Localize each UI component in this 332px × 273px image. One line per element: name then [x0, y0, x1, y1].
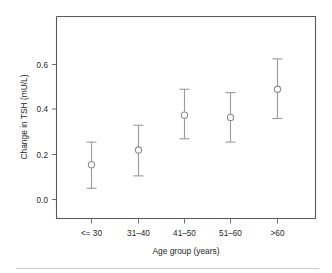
data-point-group-2: [180, 89, 190, 139]
y-tick-label-0: 0.6: [37, 61, 49, 70]
y-axis-ticks: [52, 65, 57, 200]
data-point-marker: [88, 162, 94, 168]
x-axis-title: Age group (years): [152, 246, 219, 256]
y-tick-label-2: 0.2: [37, 151, 49, 160]
x-tick-label-2: 41–50: [173, 229, 196, 238]
y-axis-tick-labels: 0.6 0.4 0.2 0.0: [37, 61, 49, 205]
data-point-marker: [135, 147, 141, 153]
data-series-layer: [87, 59, 283, 188]
data-point-group-1: [134, 125, 144, 176]
data-point-group-3: [226, 93, 236, 143]
x-tick-label-4: >60: [271, 229, 285, 238]
x-tick-label-1: 31–40: [127, 229, 150, 238]
y-tick-label-3: 0.0: [37, 196, 49, 205]
x-tick-label-3: 51–60: [219, 229, 242, 238]
tsh-change-scatter-chart: 0.6 0.4 0.2 0.0 Change in TSH (mU/L) <= …: [0, 0, 332, 273]
data-point-marker: [274, 86, 280, 92]
y-tick-label-1: 0.4: [37, 105, 49, 114]
chart-figure: 0.6 0.4 0.2 0.0 Change in TSH (mU/L) <= …: [0, 0, 332, 273]
data-point-group-4: [273, 59, 283, 119]
data-point-marker: [181, 112, 187, 118]
footer-divider: [16, 268, 319, 269]
x-axis-tick-labels: <= 30 31–40 41–50 51–60 >60: [81, 229, 285, 238]
x-tick-label-0: <= 30: [81, 229, 102, 238]
x-axis-ticks: [92, 219, 278, 224]
data-point-marker: [227, 114, 233, 120]
data-point-group-0: [87, 142, 97, 188]
y-axis-title: Change in TSH (mU/L): [19, 74, 29, 159]
